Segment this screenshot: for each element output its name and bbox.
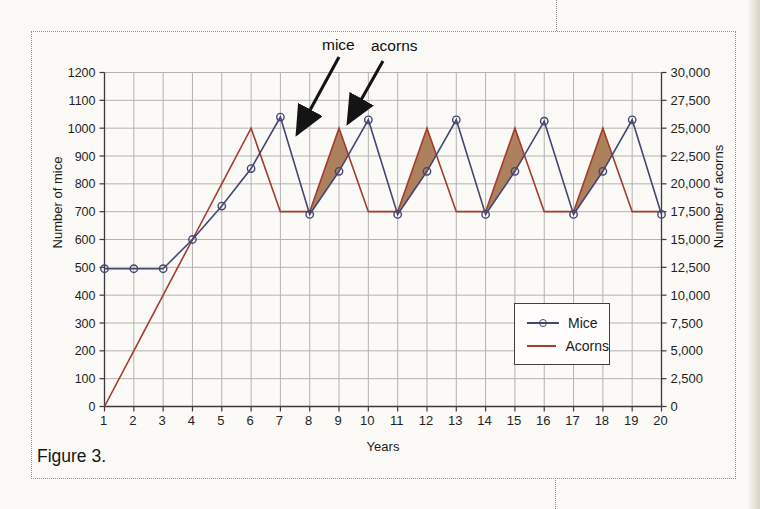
svg-text:11: 11	[390, 413, 404, 428]
svg-text:1: 1	[100, 413, 107, 428]
svg-text:15: 15	[507, 413, 521, 428]
mice-line-swatch	[527, 322, 559, 324]
svg-text:12,500: 12,500	[671, 260, 711, 275]
svg-text:900: 900	[75, 150, 96, 164]
svg-text:0: 0	[89, 400, 96, 414]
svg-text:1000: 1000	[68, 122, 96, 136]
svg-text:5: 5	[217, 413, 224, 428]
figure-caption: Figure 3.	[37, 446, 106, 467]
x-axis-title: Years	[333, 439, 433, 454]
legend-label-mice: Mice	[568, 315, 598, 331]
svg-text:16: 16	[536, 413, 550, 428]
svg-text:6: 6	[246, 413, 253, 428]
legend-item-acorns: Acorns	[527, 338, 609, 354]
svg-text:9: 9	[334, 413, 341, 428]
svg-text:5,000: 5,000	[671, 343, 704, 358]
svg-text:22,500: 22,500	[671, 149, 711, 164]
svg-text:300: 300	[75, 317, 96, 331]
svg-text:100: 100	[75, 372, 96, 386]
svg-text:200: 200	[75, 344, 96, 358]
svg-text:2: 2	[129, 413, 136, 428]
svg-text:1100: 1100	[69, 94, 96, 108]
svg-text:20: 20	[653, 413, 667, 428]
svg-text:7,500: 7,500	[671, 316, 704, 331]
svg-text:7: 7	[276, 413, 283, 428]
acorns-line-swatch	[527, 345, 556, 347]
svg-text:14: 14	[477, 413, 491, 428]
svg-text:4: 4	[188, 413, 195, 428]
svg-text:2,500: 2,500	[671, 371, 704, 386]
mice-line	[105, 117, 662, 269]
svg-text:10: 10	[360, 413, 374, 428]
svg-text:18: 18	[595, 413, 609, 428]
svg-text:27,500: 27,500	[671, 93, 711, 108]
mice-marker-icon	[539, 319, 547, 327]
svg-text:3: 3	[159, 413, 166, 428]
svg-text:1200: 1200	[68, 66, 96, 80]
shaded-areas	[310, 128, 613, 214]
svg-text:25,000: 25,000	[671, 121, 711, 136]
svg-text:500: 500	[75, 261, 96, 275]
svg-text:10,000: 10,000	[671, 288, 711, 303]
annotation-mice-label: mice	[322, 36, 355, 54]
legend-label-acorns: Acorns	[565, 338, 609, 354]
svg-text:13: 13	[448, 413, 462, 428]
svg-text:700: 700	[75, 205, 96, 219]
svg-text:800: 800	[75, 177, 96, 191]
right-axis-title: Number of acorns	[711, 137, 726, 257]
svg-text:17: 17	[565, 413, 579, 428]
legend-box: Mice Acorns	[514, 303, 610, 365]
tick-labels: 0100200300400500600700800900100011001200…	[68, 65, 711, 428]
legend-item-mice: Mice	[527, 315, 609, 331]
left-axis-title: Number of mice	[50, 143, 65, 263]
svg-text:8: 8	[305, 413, 312, 428]
chart-plot: 0100200300400500600700800900100011001200…	[0, 0, 760, 509]
svg-text:15,000: 15,000	[671, 232, 711, 247]
svg-text:20,000: 20,000	[671, 176, 711, 191]
svg-text:600: 600	[75, 233, 96, 247]
annotation-acorns-label: acorns	[371, 37, 418, 55]
svg-text:12: 12	[419, 413, 433, 428]
svg-text:19: 19	[624, 413, 638, 428]
svg-text:400: 400	[75, 289, 96, 303]
svg-text:0: 0	[671, 399, 678, 414]
svg-text:30,000: 30,000	[671, 65, 711, 80]
svg-text:17,500: 17,500	[671, 204, 711, 219]
